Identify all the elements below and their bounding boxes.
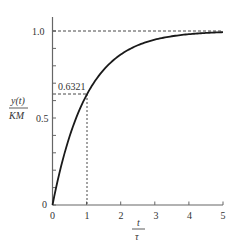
y-tick-label-0: 0 xyxy=(42,199,47,210)
x-tick-label-0: 0 xyxy=(50,210,55,221)
x-axis-label-denominator: τ xyxy=(135,231,139,242)
x-axis-label-numerator: t xyxy=(137,217,140,228)
x-tick-label-4: 4 xyxy=(187,210,192,221)
y-axis-label-denominator: KM xyxy=(8,110,25,121)
time-constant-annotation: 0.6321 xyxy=(58,81,86,92)
y-tick-label-0.5: 0.5 xyxy=(36,113,49,124)
y-axis-label: y(t) KM xyxy=(8,95,28,121)
y-axis-label-numerator: y(t) xyxy=(10,95,26,107)
step-response-chart: 1.0 0.5 0 0 1 2 3 4 5 0.6321 y(t) KM t τ xyxy=(0,0,238,246)
x-tick-label-2: 2 xyxy=(119,210,124,221)
x-tick-label-3: 3 xyxy=(154,210,159,221)
x-tick-label-5: 5 xyxy=(221,210,226,221)
x-tick-label-1: 1 xyxy=(85,210,90,221)
x-axis-label: t τ xyxy=(132,217,145,242)
y-tick-label-1.0: 1.0 xyxy=(32,26,45,37)
step-response-curve xyxy=(53,32,224,205)
